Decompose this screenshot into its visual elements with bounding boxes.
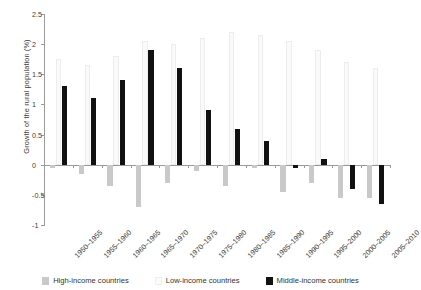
bar-low-income [56,59,61,165]
y-tick [41,165,45,166]
legend-label: High-income countries [53,276,129,285]
y-tick-label: 2.5 [32,10,35,19]
bar-middle-income [91,98,96,164]
y-tick [41,44,45,45]
x-tick-label: 1975–1980 [217,228,249,260]
y-tick-label: 0.5 [32,130,35,139]
bar-group [275,14,304,225]
x-tick [217,165,218,168]
x-tick-label: 2000–2005 [361,228,393,260]
legend-item-high-income: High-income countries [42,276,129,285]
bar-low-income [85,65,90,164]
bar-high-income [252,165,257,168]
bar-low-income [113,56,118,165]
x-tick [390,165,391,168]
x-tick [332,165,333,168]
bar-middle-income [62,86,67,164]
y-tick [41,104,45,105]
legend-swatch-icon [42,277,49,285]
x-tick [159,165,160,168]
y-tick-label: 1 [32,100,35,109]
plot-area: -1-0.500.511.522.5 [44,14,390,225]
bar-high-income [223,165,228,186]
bar-middle-income [379,165,384,204]
bar-middle-income [206,110,211,164]
bar-group [246,14,275,225]
legend-label: Middle-income countries [277,276,359,285]
bar-high-income [165,165,170,183]
y-tick-label: 0 [32,160,35,169]
bar-group [332,14,361,225]
bar-middle-income [120,80,125,164]
bar-group [159,14,188,225]
bar-low-income [344,62,349,164]
y-tick-label: 1.5 [32,70,35,79]
legend-item-low-income: Low-income countries [155,276,240,285]
y-tick-label: -1 [32,221,35,230]
bar-high-income [309,165,314,183]
bar-middle-income [148,50,153,165]
bar-middle-income [350,165,355,189]
y-tick [41,225,45,226]
bar-group [361,14,390,225]
legend-swatch-icon [155,277,162,285]
bar-middle-income [264,141,269,165]
bar-group [73,14,102,225]
bar-low-income [315,50,320,165]
x-tick-label: 1985–1990 [274,228,306,260]
bar-low-income [286,41,291,165]
bar-middle-income [321,159,326,165]
x-tick-label: 1965–1970 [159,228,191,260]
bar-groups [44,14,390,225]
x-tick [304,165,305,168]
x-tick-label: 1960–1965 [130,228,162,260]
bar-group [188,14,217,225]
bar-high-income [136,165,141,207]
bar-high-income [79,165,84,174]
bar-high-income [338,165,343,198]
bar-low-income [373,68,378,164]
x-tick-label: 1980–1985 [245,228,277,260]
bar-group [217,14,246,225]
bar-low-income [142,41,147,165]
bar-group [304,14,333,225]
bar-high-income [367,165,372,198]
y-axis-title: Growth of the rural population (%) [22,17,31,177]
x-tick-label: 1995–2000 [332,228,364,260]
bar-middle-income [293,165,298,168]
bar-low-income [200,38,205,165]
bar-middle-income [235,129,240,165]
x-tick-label: 1955–1960 [101,228,133,260]
chart-legend: High-income countriesLow-income countrie… [0,276,401,285]
x-tick-label: 1950–1955 [72,228,104,260]
x-tick [102,165,103,168]
y-tick-label: 2 [32,40,35,49]
bar-high-income [107,165,112,186]
legend-item-middle-income: Middle-income countries [266,276,359,285]
bar-high-income [50,165,55,168]
bar-group [131,14,160,225]
y-tick-label: -0.5 [32,190,35,199]
x-tick-label: 1990–1995 [303,228,335,260]
bar-group [44,14,73,225]
x-tick [188,165,189,168]
bar-low-income [229,32,234,165]
x-tick-label: 1970–1975 [188,228,220,260]
x-tick-label: 2005–2010 [390,228,421,260]
bar-group [102,14,131,225]
bar-low-income [258,35,263,165]
x-tick [361,165,362,168]
legend-label: Low-income countries [166,276,240,285]
x-tick [246,165,247,168]
bar-high-income [280,165,285,192]
bar-high-income [194,165,199,171]
x-tick [131,165,132,168]
legend-swatch-icon [266,277,273,285]
bar-middle-income [177,68,182,164]
x-tick [73,165,74,168]
bar-low-income [171,44,176,165]
x-axis-labels: 1950–19551955–19601960–19651965–19701970… [44,228,390,272]
x-tick [275,165,276,168]
